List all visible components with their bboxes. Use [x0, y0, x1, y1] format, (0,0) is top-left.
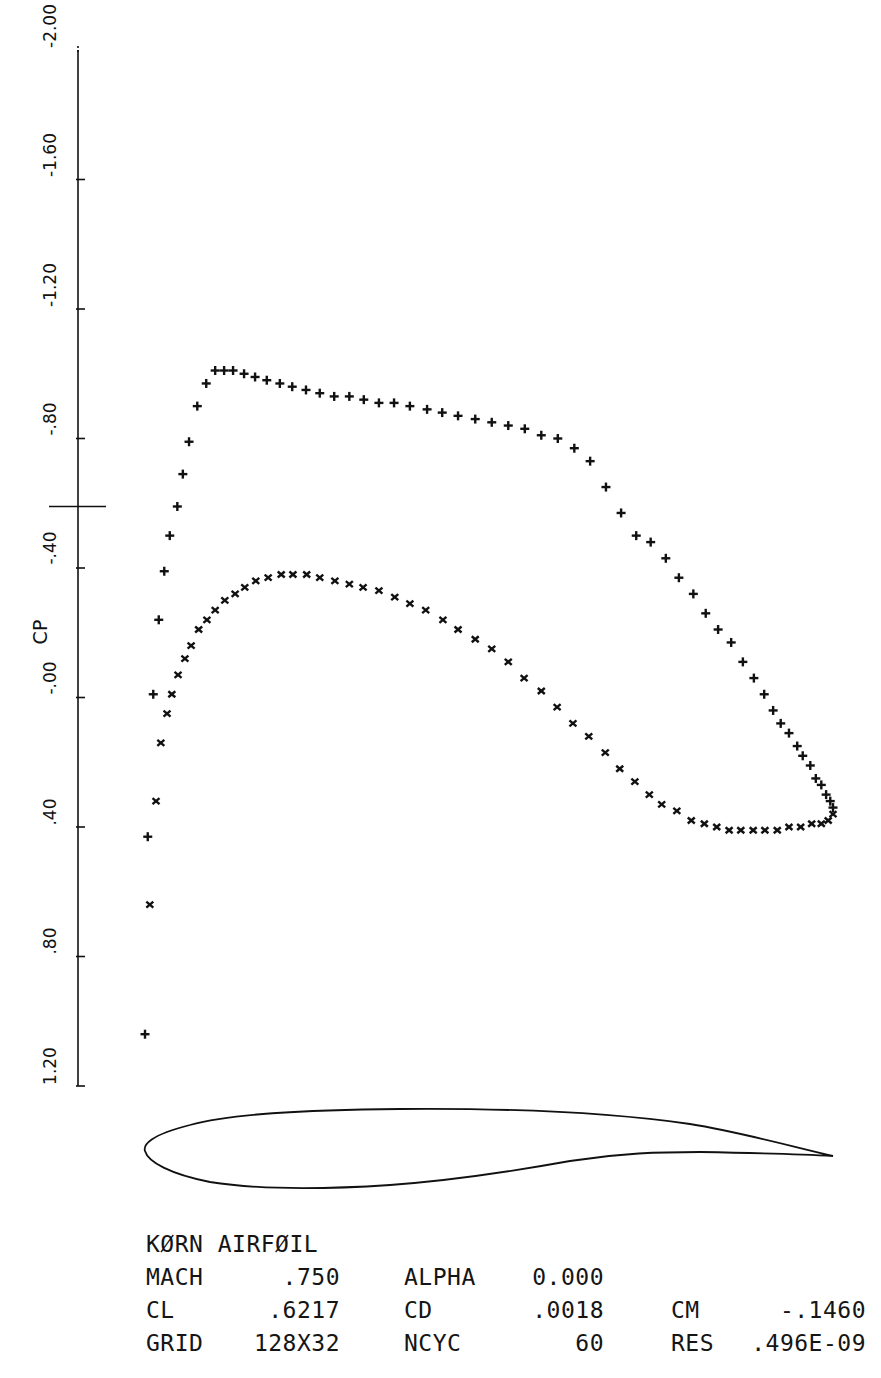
mach-value: .750: [244, 1261, 340, 1294]
y-tick-label: .80: [40, 906, 60, 976]
y-tick-label: -2.00: [40, 0, 60, 61]
y-tick-label: .40: [40, 777, 60, 847]
y-tick-label: -.00: [40, 643, 60, 713]
y-tick-label: 1.20: [40, 1031, 60, 1101]
cl-label: CL: [146, 1294, 175, 1327]
y-tick-label: -1.20: [40, 250, 60, 320]
y-tick-label: -.40: [40, 513, 60, 583]
param-row-1: MACH .750 ALPHA 0.000: [146, 1261, 876, 1294]
mach-label: MACH: [146, 1261, 203, 1294]
run-parameters-block: KØRN AIRFØIL MACH .750 ALPHA 0.000 CL .6…: [146, 1228, 876, 1360]
param-row-3: GRID 128X32 NCYC 60 RES .496E-09: [146, 1327, 876, 1360]
cm-label: CM: [671, 1294, 700, 1327]
grid-value: 128X32: [244, 1327, 340, 1360]
y-tick-label: -.80: [40, 384, 60, 454]
cm-value: -.1460: [706, 1294, 866, 1327]
cp-plot: [0, 0, 881, 1378]
airfoil-title: KØRN AIRFØIL: [146, 1228, 318, 1261]
ncyc-label: NCYC: [404, 1327, 461, 1360]
upper-surface-series: [141, 366, 838, 1039]
alpha-label: ALPHA: [404, 1261, 476, 1294]
airfoil-title-row: KØRN AIRFØIL: [146, 1228, 876, 1261]
alpha-value: 0.000: [516, 1261, 604, 1294]
res-value: .496E-09: [706, 1327, 866, 1360]
airfoil-outline: [145, 1109, 833, 1188]
cd-value: .0018: [516, 1294, 604, 1327]
cl-value: .6217: [244, 1294, 340, 1327]
y-axis-label: CP: [29, 612, 51, 652]
lower-surface-series: [146, 571, 836, 907]
y-tick-label: -1.60: [40, 120, 60, 190]
param-row-2: CL .6217 CD .0018 CM -.1460: [146, 1294, 876, 1327]
grid-label: GRID: [146, 1327, 203, 1360]
ncyc-value: 60: [516, 1327, 604, 1360]
cd-label: CD: [404, 1294, 433, 1327]
